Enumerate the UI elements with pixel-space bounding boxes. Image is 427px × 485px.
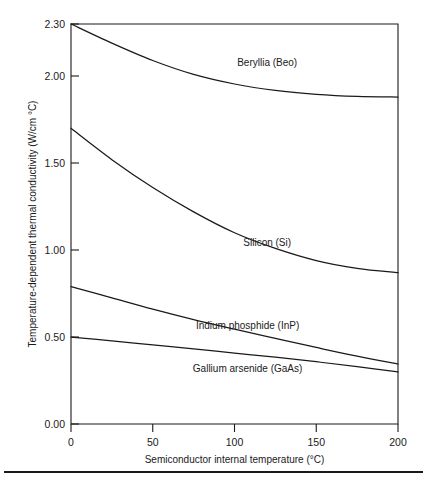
thermal-conductivity-line-chart: 0.00 0.50 1.00 1.50 2.00 2.30 0 50 100 1…	[0, 0, 427, 485]
series-label-gallium-arsenide: Gallium arsenide (GaAs)	[193, 363, 302, 374]
y-axis-title: Temperature-dependent thermal conductivi…	[27, 101, 38, 348]
y-tick-label-1: 0.50	[45, 331, 66, 343]
series-label-beryllia: Beryllia (Beo)	[237, 57, 297, 68]
x-axis-title: Semiconductor internal temperature (°C)	[145, 454, 325, 465]
x-tick-label-4: 200	[389, 436, 407, 448]
chart-figure: 0.00 0.50 1.00 1.50 2.00 2.30 0 50 100 1…	[0, 0, 427, 485]
x-tick-label-0: 0	[68, 436, 74, 448]
y-tick-label-5: 2.30	[45, 18, 66, 30]
x-tick-label-1: 50	[147, 436, 159, 448]
y-tick-label-3: 1.50	[45, 157, 66, 169]
x-tick-label-3: 150	[307, 436, 325, 448]
x-tick-label-2: 100	[226, 436, 244, 448]
y-tick-label-0: 0.00	[45, 418, 66, 430]
series-label-indium-phosphide: Indium phosphide (InP)	[196, 320, 299, 331]
y-tick-label-2: 1.00	[45, 244, 66, 256]
series-label-silicon: Silicon (Si)	[243, 237, 291, 248]
y-tick-label-4: 2.00	[45, 70, 66, 82]
